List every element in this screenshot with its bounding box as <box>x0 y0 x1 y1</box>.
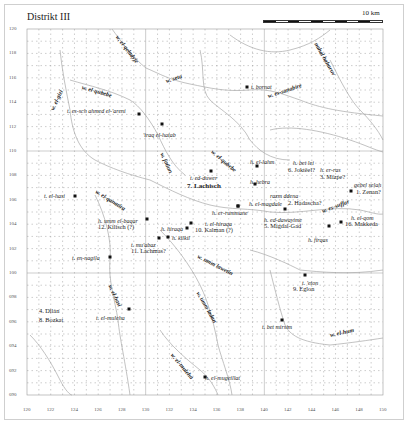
biblical-place-label: 6. Joktëel? <box>288 167 315 173</box>
x-tick: 142 <box>284 407 292 412</box>
map-canvas <box>0 0 406 423</box>
biblical-place-label: 5. Migdal-Gad <box>264 223 301 229</box>
site-label: h. el-lahm <box>250 159 274 165</box>
site-label: h. er-rummane <box>212 210 248 216</box>
site-marker <box>109 256 112 259</box>
site-label: t. ed-duwer <box>190 175 217 181</box>
x-tick: 134 <box>189 407 197 412</box>
x-tick: 148 <box>355 407 363 412</box>
biblical-place-label: 9. Eglon <box>293 286 314 292</box>
biblical-place-label: 2. Hadascha? <box>288 200 322 206</box>
y-tick: 114 <box>9 99 16 104</box>
x-tick: 122 <box>47 407 55 412</box>
site-marker <box>158 237 161 240</box>
site-label: t. es-sch ahmed el-'areni <box>67 108 126 114</box>
site-label: h. hiraqa <box>161 226 183 232</box>
site-marker <box>167 236 170 239</box>
biblical-place-label: 16. Makkeda <box>345 221 378 227</box>
site-marker <box>246 86 249 89</box>
y-tick: 116 <box>9 75 16 80</box>
site-label: t. el-muleha <box>96 315 125 321</box>
site-marker <box>210 170 213 173</box>
site-label: h. kilkil <box>172 235 190 241</box>
site-marker <box>340 221 343 224</box>
site-label: h. hebra <box>250 179 270 185</box>
site-marker <box>284 208 287 211</box>
site-label: 'iraq el-hatab <box>143 132 176 138</box>
site-marker <box>190 222 193 225</box>
x-tick: 130 <box>142 407 150 412</box>
site-marker <box>161 123 164 126</box>
x-tick: 150 <box>379 407 387 412</box>
y-tick: 118 <box>9 50 16 55</box>
site-label: t. bet mirsim <box>262 324 292 330</box>
site-marker <box>350 190 353 193</box>
y-tick: 108 <box>9 172 17 177</box>
site-marker <box>304 274 307 277</box>
x-tick: 144 <box>308 407 316 412</box>
site-marker <box>146 218 149 221</box>
site-label: h. el-magdale <box>249 201 282 207</box>
site-marker <box>186 227 189 230</box>
y-tick: 094 <box>9 343 17 348</box>
biblical-place-label: 3. Mizpe? <box>320 174 345 180</box>
y-tick: 096 <box>9 319 17 324</box>
biblical-place-label: 7. Lachisch <box>187 183 221 190</box>
site-marker <box>237 205 240 208</box>
y-tick: 104 <box>9 221 17 226</box>
y-tick: 106 <box>9 197 17 202</box>
x-tick: 132 <box>165 407 173 412</box>
site-marker <box>328 225 331 228</box>
y-tick: 102 <box>9 246 17 251</box>
site-label: t. el-hasi <box>44 193 65 199</box>
biblical-place-label: 8. Bozkat <box>39 317 63 323</box>
site-marker <box>128 308 131 311</box>
x-tick: 136 <box>213 407 221 412</box>
x-tick: 126 <box>94 407 102 412</box>
biblical-place-label: 10. Kalman (?) <box>195 227 233 233</box>
site-label: t. bornat <box>251 84 272 90</box>
coordinate-grid <box>27 29 383 395</box>
biblical-place-label: 12. Kilisch (?) <box>98 224 134 230</box>
y-tick: 098 <box>9 294 17 299</box>
x-tick: 124 <box>70 407 78 412</box>
x-tick: 128 <box>118 407 126 412</box>
y-tick: 092 <box>9 368 17 373</box>
biblical-place-label: 11. Lachmas? <box>131 248 166 254</box>
x-tick: 140 <box>260 407 268 412</box>
site-marker <box>281 319 284 322</box>
x-tick: 138 <box>237 407 245 412</box>
site-label: h. el-mugeillat <box>205 375 240 381</box>
y-tick: 120 <box>9 26 17 31</box>
y-tick: 110 <box>9 148 16 153</box>
biblical-place-label: 1. Zenan? <box>356 189 381 195</box>
x-tick: 146 <box>332 407 340 412</box>
biblical-place-label: 4. Dilan <box>39 308 59 314</box>
site-marker <box>74 195 77 198</box>
site-label: h. firqas <box>308 237 328 243</box>
y-tick: 100 <box>9 270 17 275</box>
y-tick: 090 <box>9 392 17 397</box>
site-label: t. en-nagila <box>72 255 100 261</box>
site-marker <box>138 113 141 116</box>
x-tick: 120 <box>23 407 31 412</box>
y-tick: 112 <box>9 124 16 129</box>
